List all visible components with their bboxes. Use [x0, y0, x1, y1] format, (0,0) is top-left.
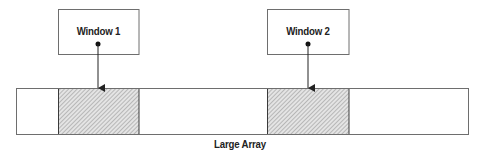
large-array-label: Large Array: [203, 138, 277, 150]
window-2-label: Window 2: [270, 25, 345, 37]
sliding-window-diagram: [0, 0, 480, 157]
window-1-label: Window 1: [61, 25, 136, 37]
array-window-region-2: [268, 89, 350, 135]
array-window-region-1: [59, 89, 140, 135]
